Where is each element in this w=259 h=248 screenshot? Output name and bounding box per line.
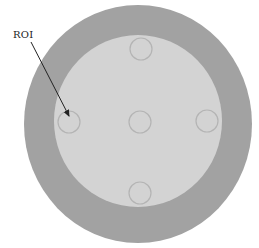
inner-disc: [54, 35, 222, 207]
roi-label: ROI: [13, 29, 33, 40]
phantom-diagram: [0, 0, 259, 248]
